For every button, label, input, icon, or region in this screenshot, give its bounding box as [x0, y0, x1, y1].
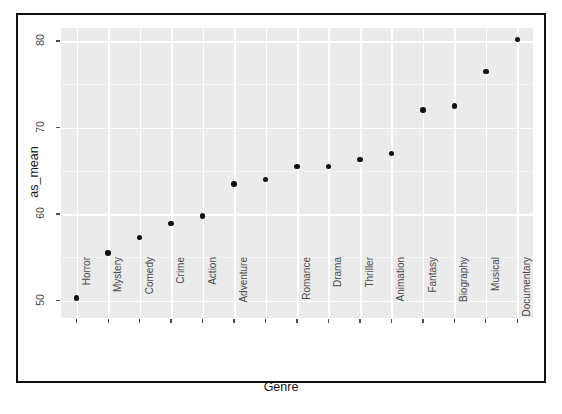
x-axis-tick-label: Fantasy: [427, 257, 438, 327]
x-axis-tick-mark: [170, 319, 171, 323]
figure-frame: 50607080HorrorMysteryComedyCrimeActionAd…: [16, 13, 546, 383]
x-axis-tick-label: Romance: [301, 257, 312, 327]
gridline-major-vertical: [517, 28, 519, 318]
y-axis-tick-mark: [56, 127, 60, 128]
x-axis-tick-mark: [359, 319, 360, 323]
gridline-major-vertical: [77, 28, 79, 318]
data-point: [326, 164, 332, 170]
data-point: [483, 69, 489, 75]
scatter-plot: 50607080HorrorMysteryComedyCrimeActionAd…: [18, 15, 544, 381]
x-axis-tick-mark: [108, 319, 109, 323]
data-point: [168, 221, 174, 227]
data-point: [137, 235, 143, 241]
x-axis-tick-label: Adventure: [238, 257, 249, 327]
x-axis-tick-label: Comedy: [144, 257, 155, 327]
data-point: [389, 151, 395, 157]
x-axis-tick-mark: [485, 319, 486, 323]
gridline-major-vertical: [171, 28, 173, 318]
data-point: [231, 181, 237, 187]
gridline-major-vertical: [391, 28, 393, 318]
y-axis-tick-mark: [56, 300, 60, 301]
x-axis-tick-label: Biography: [458, 257, 469, 327]
x-axis-tick-label: Mystery: [112, 257, 123, 327]
gridline-major-vertical: [423, 28, 425, 318]
data-point: [452, 103, 458, 109]
y-axis-tick-label: 80: [34, 27, 46, 53]
data-point: [263, 177, 269, 183]
data-point: [357, 157, 363, 163]
x-axis-tick-mark: [233, 319, 234, 323]
data-point: [515, 37, 521, 43]
gridline-major-vertical: [108, 28, 110, 318]
gridline-major-vertical: [297, 28, 299, 318]
gridline-major-vertical: [454, 28, 456, 318]
gridline-major-vertical: [266, 28, 268, 318]
y-axis-tick-mark: [56, 213, 60, 214]
data-point: [200, 213, 206, 219]
y-axis-tick-mark: [56, 40, 60, 41]
y-axis-tick-label: 50: [34, 287, 46, 313]
x-axis-tick-mark: [517, 319, 518, 323]
x-axis-tick-label: Documentary: [521, 257, 532, 327]
x-axis-tick-mark: [76, 319, 77, 323]
x-axis-tick-mark: [296, 319, 297, 323]
x-axis-tick-mark: [454, 319, 455, 323]
x-axis-tick-label: Animation: [395, 257, 406, 327]
data-point: [105, 250, 111, 256]
x-axis-tick-label: Musical: [490, 257, 501, 327]
x-axis-tick-mark: [265, 319, 266, 323]
x-axis-label: Genre: [18, 380, 544, 394]
x-axis-tick-mark: [202, 319, 203, 323]
data-point: [294, 164, 300, 170]
x-axis-tick-label: Thriller: [364, 257, 375, 327]
gridline-major-vertical: [328, 28, 330, 318]
x-axis-tick-mark: [422, 319, 423, 323]
y-axis-label: as_mean: [27, 112, 41, 232]
gridline-major-vertical: [234, 28, 236, 318]
gridline-major-vertical: [203, 28, 205, 318]
data-point: [420, 107, 426, 113]
x-axis-tick-label: Crime: [175, 257, 186, 327]
gridline-major-vertical: [360, 28, 362, 318]
x-axis-tick-mark: [328, 319, 329, 323]
gridline-major-vertical: [140, 28, 142, 318]
x-axis-tick-label: Drama: [332, 257, 343, 327]
x-axis-tick-mark: [139, 319, 140, 323]
x-axis-tick-label: Horror: [81, 257, 92, 327]
x-axis-tick-label: Action: [207, 257, 218, 327]
x-axis-tick-mark: [391, 319, 392, 323]
